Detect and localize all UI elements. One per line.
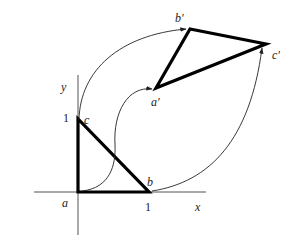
x-axis-label: x <box>194 200 201 214</box>
vertex-label-b: b <box>147 175 153 189</box>
transformation-diagram: y 1 x 1 a b c a' b' c' <box>0 0 291 246</box>
mapping-curve-a-to-a-prime <box>82 89 152 191</box>
y-axis-label: y <box>60 80 67 94</box>
vertex-label-a-prime: a' <box>151 95 160 109</box>
vertex-label-c: c <box>84 113 90 127</box>
x-tick-label: 1 <box>145 200 151 214</box>
source-triangle <box>78 119 149 192</box>
y-tick-label: 1 <box>63 111 69 125</box>
vertex-label-b-prime: b' <box>175 11 184 25</box>
mapping-curve-c-to-b-prime <box>79 29 186 120</box>
vertex-label-c-prime: c' <box>272 48 280 62</box>
vertex-label-a: a <box>62 196 68 210</box>
image-triangle <box>156 29 266 88</box>
